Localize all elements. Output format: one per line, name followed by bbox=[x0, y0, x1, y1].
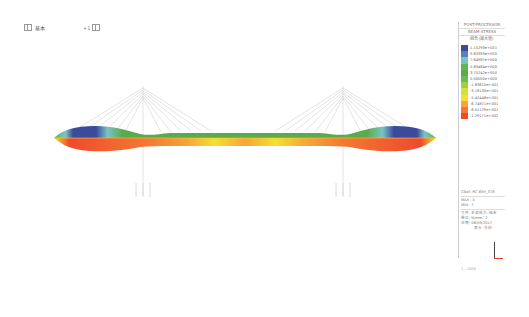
view-icon[interactable] bbox=[24, 24, 32, 31]
legend-value: 3.75242e+000 bbox=[470, 71, 497, 75]
deck-bottom-stress bbox=[54, 138, 436, 151]
axis-triad-icon bbox=[485, 240, 505, 264]
result-info: CBall: RC BSH_ST8 MAX : 5 MIN : 7 文件: 主梁… bbox=[461, 190, 505, 231]
panel-component: 組合(最大值) bbox=[459, 36, 505, 42]
legend-row: -1.29171e+002 bbox=[461, 113, 505, 119]
legend-value: 9.63393e+000 bbox=[470, 52, 497, 56]
legend-value: 7.64987e+000 bbox=[470, 58, 497, 62]
view-direction: 表示-方向 bbox=[461, 226, 505, 231]
legend-value: -3.18130e+001 bbox=[470, 89, 498, 93]
panel-title: POST-PROCESSOR bbox=[459, 22, 505, 29]
legend-swatch bbox=[461, 113, 468, 119]
model-name: CBall: RC BSH_ST8 bbox=[461, 190, 505, 195]
legend-value: 0.00000e+000 bbox=[470, 77, 497, 81]
color-legend: 1.15293e+001 9.63393e+000 7.64987e+000 5… bbox=[461, 45, 505, 119]
zoom-label: +1 bbox=[83, 25, 90, 31]
legend-value: 5.69464e+000 bbox=[470, 65, 497, 69]
bridge-stress-contour bbox=[0, 0, 529, 317]
min-element: MIN : 7 bbox=[461, 203, 505, 208]
panel-subtitle: BEAM STRESS bbox=[459, 29, 505, 36]
view-toolbar: 基本 +1 bbox=[24, 24, 103, 31]
legend-value: -1.29171e+002 bbox=[470, 114, 498, 118]
legend-value: -6.74871e+001 bbox=[470, 102, 498, 106]
legend-value: -8.01129e+001 bbox=[470, 108, 498, 112]
piers bbox=[136, 183, 350, 197]
viewport[interactable]: 基本 +1 POST-PROCESSOR BEAM STRESS 組合(最大值)… bbox=[0, 0, 529, 317]
deck-top-stress bbox=[54, 126, 436, 138]
legend-value: -1.83610e+001 bbox=[470, 83, 498, 87]
legend-value: -5.42448e+001 bbox=[470, 96, 498, 100]
scale-label: 1 : 1000 bbox=[461, 267, 476, 271]
legend-panel: POST-PROCESSOR BEAM STRESS 組合(最大值) 1.152… bbox=[458, 22, 505, 258]
zoom-icon[interactable] bbox=[92, 24, 100, 31]
view-label: 基本 bbox=[35, 24, 45, 31]
legend-value: 1.15293e+001 bbox=[470, 46, 497, 50]
